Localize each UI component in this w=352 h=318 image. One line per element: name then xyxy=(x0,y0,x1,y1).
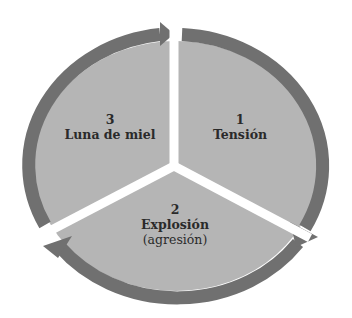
cycle-diagram xyxy=(0,0,352,318)
phase-3-number: 3 xyxy=(62,112,158,127)
phase-2-label: 2 Explosión (agresión) xyxy=(130,202,220,247)
phase-1-name: Tensión xyxy=(205,127,275,142)
phase-1-label: 1 Tensión xyxy=(205,112,275,142)
phase-2-name: Explosión xyxy=(130,217,220,232)
phase-2-subtitle: (agresión) xyxy=(130,232,220,247)
phase-3-name: Luna de miel xyxy=(62,127,158,142)
phase-3-label: 3 Luna de miel xyxy=(62,112,158,142)
phase-1-number: 1 xyxy=(205,112,275,127)
phase-2-number: 2 xyxy=(130,202,220,217)
